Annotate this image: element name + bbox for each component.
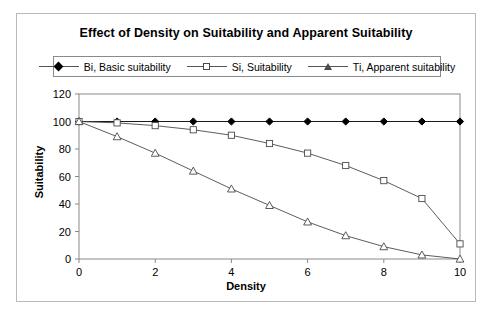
data-point-marker — [419, 195, 425, 201]
y-tick-label: 0 — [65, 253, 71, 265]
data-point-marker — [380, 118, 387, 125]
data-point-marker — [342, 232, 350, 239]
series-line — [79, 122, 460, 244]
data-point-marker — [228, 132, 234, 138]
plot-area: 0204060801001200246810 Suitability Densi… — [17, 84, 475, 301]
chart-figure: Effect of Density on Suitability and App… — [16, 13, 476, 302]
x-tick-label: 2 — [152, 266, 158, 278]
data-point-marker — [304, 118, 311, 125]
data-point-marker — [266, 140, 272, 146]
data-point-marker — [190, 127, 196, 133]
data-point-marker — [228, 185, 236, 192]
data-point-marker — [304, 218, 312, 225]
y-axis-title: Suitability — [33, 132, 45, 212]
legend-item-ti: Ti, Apparent suitability — [308, 61, 455, 73]
y-tick-label: 60 — [59, 171, 71, 183]
legend-marker-open-square-icon — [187, 61, 227, 73]
legend-label-ti: Ti, Apparent suitability — [353, 61, 455, 73]
plot-svg: 0204060801001200246810 — [17, 84, 475, 279]
y-tick-label: 120 — [53, 88, 71, 100]
x-tick-label: 0 — [76, 266, 82, 278]
x-tick-label: 6 — [305, 266, 311, 278]
data-point-marker — [266, 118, 273, 125]
data-point-marker — [342, 118, 349, 125]
x-tick-label: 4 — [228, 266, 234, 278]
data-point-marker — [457, 241, 463, 247]
legend-item-bi: Bi, Basic suitability — [39, 61, 171, 73]
data-point-marker — [113, 133, 121, 140]
data-point-marker — [343, 162, 349, 168]
x-axis-title: Density — [17, 280, 475, 292]
data-point-marker — [190, 118, 197, 125]
x-tick-label: 8 — [381, 266, 387, 278]
data-point-marker — [189, 167, 197, 174]
legend-label-bi: Bi, Basic suitability — [84, 61, 171, 73]
data-point-marker — [381, 178, 387, 184]
chart-legend: Bi, Basic suitability Si, Suitability Ti… — [53, 56, 441, 77]
data-point-marker — [114, 120, 120, 126]
y-tick-label: 80 — [59, 143, 71, 155]
legend-marker-open-triangle-icon — [308, 61, 348, 73]
y-tick-label: 20 — [59, 226, 71, 238]
data-point-marker — [151, 149, 159, 156]
y-tick-label: 100 — [53, 116, 71, 128]
data-point-marker — [456, 118, 463, 125]
data-point-marker — [152, 123, 158, 129]
legend-item-si: Si, Suitability — [187, 61, 292, 73]
data-point-marker — [418, 118, 425, 125]
data-point-marker — [228, 118, 235, 125]
chart-title: Effect of Density on Suitability and App… — [17, 26, 475, 40]
x-tick-label: 10 — [454, 266, 466, 278]
y-tick-label: 40 — [59, 198, 71, 210]
legend-label-si: Si, Suitability — [232, 61, 292, 73]
data-point-marker — [266, 201, 274, 208]
legend-marker-filled-diamond-icon — [39, 61, 79, 73]
data-point-marker — [305, 150, 311, 156]
